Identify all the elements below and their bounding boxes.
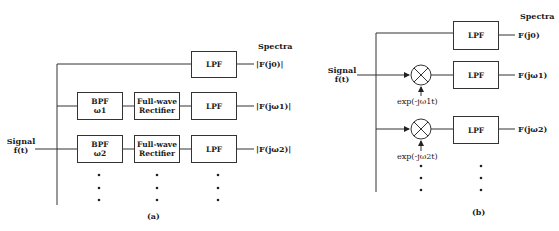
block-sublabel: ω1 bbox=[94, 106, 106, 115]
a-rectifier-block-2: Full-wave Rectifier bbox=[134, 135, 180, 163]
a-bpf-block-1: BPF ω1 bbox=[77, 92, 123, 120]
diagram-figure: LPF BPF ω1 Full-wave Rectifier LPF BPF ω… bbox=[0, 0, 559, 231]
block-label: BPF bbox=[91, 140, 108, 149]
a-spectra-heading: Spectra bbox=[258, 42, 292, 51]
b-input-label: Signal f(t) bbox=[326, 66, 358, 84]
a-input-label: Signal f(t) bbox=[6, 137, 36, 155]
block-label: Full-wave bbox=[137, 97, 177, 106]
block-label: LPF bbox=[206, 145, 222, 154]
block-label: LPF bbox=[206, 60, 222, 69]
a-output-1: |F(jω1)| bbox=[256, 102, 291, 111]
b-spectra-heading: Spectra bbox=[520, 12, 554, 21]
b-output-1: F(jω1) bbox=[518, 71, 547, 80]
b-output-2: F(jω2) bbox=[518, 125, 547, 134]
b-lpf-block-2: LPF bbox=[453, 116, 499, 144]
block-label: LPF bbox=[468, 71, 484, 80]
a-output-0: |F(j0)| bbox=[256, 60, 284, 69]
a-caption: (a) bbox=[147, 212, 160, 221]
a-output-2: |F(jω2)| bbox=[256, 145, 291, 154]
b-lpf-block-1: LPF bbox=[453, 61, 499, 89]
block-sublabel: Rectifier bbox=[139, 149, 175, 158]
block-label: LPF bbox=[468, 31, 484, 40]
a-bpf-block-2: BPF ω2 bbox=[77, 135, 123, 163]
b-lpf-block-0: LPF bbox=[453, 21, 499, 50]
b-mixer-label-2: exp(-jω2t) bbox=[397, 152, 438, 161]
b-input-label-2: f(t) bbox=[326, 75, 358, 84]
block-sublabel: ω2 bbox=[94, 149, 106, 158]
a-rectifier-block-1: Full-wave Rectifier bbox=[134, 92, 180, 120]
b-mixer-label-1: exp(-jω1t) bbox=[397, 97, 438, 106]
b-output-0: F(j0) bbox=[518, 31, 540, 40]
a-lpf-block-0: LPF bbox=[191, 51, 237, 78]
b-caption: (b) bbox=[472, 208, 485, 217]
block-label: Full-wave bbox=[137, 140, 177, 149]
block-sublabel: Rectifier bbox=[139, 106, 175, 115]
block-label: LPF bbox=[206, 102, 222, 111]
a-input-label-2: f(t) bbox=[6, 146, 36, 155]
block-label: LPF bbox=[468, 126, 484, 135]
a-lpf-block-1: LPF bbox=[191, 92, 237, 120]
block-label: BPF bbox=[91, 97, 108, 106]
a-lpf-block-2: LPF bbox=[191, 135, 237, 163]
